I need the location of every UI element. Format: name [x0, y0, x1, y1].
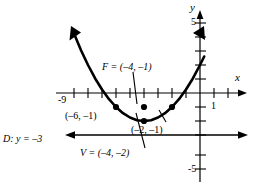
point-focus-marker — [141, 104, 147, 110]
leader-lines — [133, 72, 166, 148]
directrix-right-arrowhead — [238, 131, 248, 139]
y-tick-label-5: 5 — [191, 17, 196, 27]
focus-label: F = (–4, –1) — [102, 62, 152, 72]
point-right-marker — [169, 104, 175, 110]
y-tick-label-neg5: -5 — [188, 164, 196, 174]
parabola-curve-precise — [74, 34, 204, 122]
x-tick-label-neg9: -9 — [58, 95, 66, 105]
y-axis-arrowhead — [197, 10, 204, 19]
x-axis-label: x — [235, 72, 240, 83]
vertex-label: V = (–4, –2) — [80, 148, 129, 158]
x-tick-label-1: 1 — [211, 101, 216, 111]
directrix-label: D: y = –3 — [3, 134, 42, 144]
point-right-label: (–2, –1) — [131, 125, 163, 135]
point-left-marker — [113, 104, 119, 110]
focus-leader-line — [133, 72, 137, 104]
x-axis-arrowhead — [238, 90, 247, 97]
parabola-curve-group — [70, 26, 206, 121]
y-axis-label: y — [190, 2, 195, 13]
parabola-figure — [0, 0, 253, 190]
directrix-left-arrowhead — [65, 131, 75, 139]
point-left-label: (–6, –1) — [65, 111, 97, 121]
parabola-right-arrowhead — [193, 26, 205, 40]
